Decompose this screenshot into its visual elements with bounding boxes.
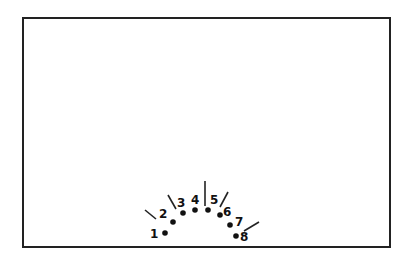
point-label-7: 7 (235, 215, 243, 229)
point-4 (192, 207, 198, 213)
point-8 (233, 233, 239, 239)
point-label-6: 6 (223, 205, 231, 219)
point-label-3: 3 (177, 196, 185, 210)
point-label-4: 4 (191, 193, 199, 207)
tick-line (168, 195, 176, 209)
point-label-1: 1 (150, 227, 158, 241)
point-label-2: 2 (159, 207, 167, 221)
tick-line (145, 210, 156, 219)
point-6 (217, 212, 223, 218)
arc-point-diagram: 12345678 (0, 0, 409, 264)
point-2 (170, 219, 176, 225)
point-label-5: 5 (210, 193, 218, 207)
point-7 (227, 222, 233, 228)
point-3 (180, 210, 186, 216)
point-label-8: 8 (240, 230, 248, 244)
point-1 (162, 230, 168, 236)
point-5 (205, 207, 211, 213)
